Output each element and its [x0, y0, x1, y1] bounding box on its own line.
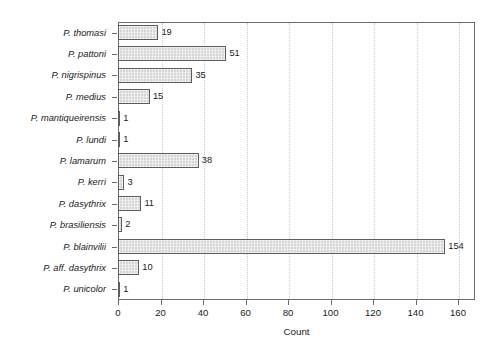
x-axis-tick	[246, 300, 247, 305]
y-axis-tick-label: P. kerri	[0, 177, 112, 187]
y-axis-tick	[112, 161, 117, 162]
y-axis-tick	[112, 204, 117, 205]
bar-row: 51	[118, 43, 475, 64]
y-axis-tick	[112, 289, 117, 290]
bar-value-label: 1	[120, 282, 128, 297]
y-axis-tick	[112, 33, 117, 34]
y-axis-tick	[112, 75, 117, 76]
bar-value-label: 19	[158, 25, 171, 40]
bar	[118, 68, 192, 83]
y-axis-tick-label: P. pattoni	[0, 49, 112, 59]
x-axis-tick	[118, 300, 119, 305]
y-axis-tick	[112, 268, 117, 269]
y-axis-tick-label: P. aff. dasythrix	[0, 263, 112, 273]
bar-value-label: 10	[139, 260, 152, 275]
y-axis-tick-label: P. unicolor	[0, 284, 112, 294]
x-axis-tick	[161, 300, 162, 305]
x-axis-tick-label: 120	[353, 307, 393, 318]
bar-row: 10	[118, 257, 475, 278]
bar-value-label: 15	[150, 89, 163, 104]
x-axis-tick	[416, 300, 417, 305]
bar-value-label: 3	[124, 175, 132, 190]
y-axis-tick-label: P. lamarum	[0, 156, 112, 166]
x-axis-tick-label: 20	[141, 307, 181, 318]
bar	[118, 239, 445, 254]
y-axis-tick-label: P. blainvilii	[0, 242, 112, 252]
bar	[118, 89, 150, 104]
x-axis-tick-label: 100	[311, 307, 351, 318]
bar-row: 154	[118, 236, 475, 257]
x-axis-tick	[203, 300, 204, 305]
bar-row: 1	[118, 129, 475, 150]
y-axis-tick-label: P. mantiqueirensis	[0, 113, 112, 123]
y-axis-tick-label: P. nigrispinus	[0, 70, 112, 80]
bar	[118, 260, 139, 275]
y-axis-tick-label: P. thomasi	[0, 28, 112, 38]
x-axis-tick-label: 0	[98, 307, 138, 318]
x-axis-tick-label: 60	[226, 307, 266, 318]
bar-row: 15	[118, 86, 475, 107]
bar	[118, 25, 158, 40]
y-axis-tick	[112, 118, 117, 119]
x-axis-tick	[288, 300, 289, 305]
y-axis-tick	[112, 182, 117, 183]
y-axis-tick	[112, 225, 117, 226]
bar-row: 3	[118, 172, 475, 193]
y-axis-tick	[112, 97, 117, 98]
bar	[118, 196, 141, 211]
bar-row: 2	[118, 214, 475, 235]
bar-chart: P. thomasiP. pattoniP. nigrispinusP. med…	[0, 0, 503, 355]
bar-value-label: 35	[192, 68, 205, 83]
x-axis-tick-label: 40	[183, 307, 223, 318]
y-axis-tick-label: P. lundi	[0, 135, 112, 145]
bar-value-label: 154	[445, 239, 464, 254]
y-axis-tick	[112, 54, 117, 55]
bar-value-label: 1	[120, 132, 128, 147]
y-axis-labels: P. thomasiP. pattoniP. nigrispinusP. med…	[0, 22, 112, 300]
bar-row: 1	[118, 279, 475, 300]
bars-layer: 1951351511383112154101	[118, 22, 475, 300]
bar-row: 19	[118, 22, 475, 43]
bar-value-label: 51	[226, 46, 239, 61]
bar-row: 1	[118, 108, 475, 129]
bar-value-label: 38	[199, 153, 212, 168]
bar-value-label: 1	[120, 111, 128, 126]
y-axis-tick	[112, 140, 117, 141]
bar-row: 38	[118, 150, 475, 171]
bar-row: 35	[118, 65, 475, 86]
bar-value-label: 2	[122, 217, 130, 232]
x-axis-tick	[331, 300, 332, 305]
bar-row: 11	[118, 193, 475, 214]
x-axis-tick-label: 160	[438, 307, 478, 318]
x-axis-title: Count	[118, 326, 475, 337]
x-axis-tick	[373, 300, 374, 305]
bar	[118, 46, 226, 61]
y-axis-tick	[112, 247, 117, 248]
x-axis-tick-label: 80	[268, 307, 308, 318]
y-axis-tick-label: P. medius	[0, 92, 112, 102]
x-axis-tick	[458, 300, 459, 305]
bar	[118, 153, 199, 168]
x-axis-tick-label: 140	[396, 307, 436, 318]
bar-value-label: 11	[141, 196, 154, 211]
y-axis-tick-label: P. brasiliensis	[0, 220, 112, 230]
y-axis-tick-label: P. dasythrix	[0, 199, 112, 209]
